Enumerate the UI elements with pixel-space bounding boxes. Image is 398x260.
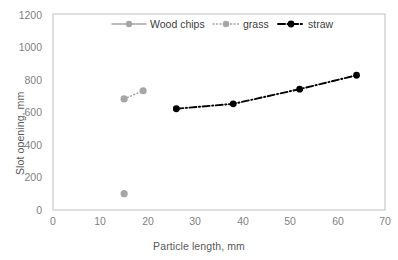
legend-item-wood-chips: Wood chips <box>112 18 205 30</box>
series-wood-chips <box>121 190 128 197</box>
series-line <box>176 75 356 108</box>
plot-svg: Wood chipsgrassstraw <box>0 0 398 260</box>
data-point <box>230 100 237 107</box>
legend-item-straw: straw <box>278 18 334 30</box>
series-grass <box>121 87 147 102</box>
chart-container: Slot opening, mm Particle length, mm 0 2… <box>0 0 398 260</box>
data-point <box>121 190 128 197</box>
legend-marker <box>288 21 295 28</box>
data-point <box>121 95 128 102</box>
legend-label: grass <box>243 18 269 30</box>
legend-marker <box>126 21 132 27</box>
data-point <box>173 105 180 112</box>
data-point <box>353 72 360 79</box>
series-straw <box>173 72 360 112</box>
data-series-layer <box>121 72 360 197</box>
chart-legend: Wood chipsgrassstraw <box>112 18 334 30</box>
data-point <box>296 86 303 93</box>
legend-label: straw <box>308 18 334 30</box>
data-point <box>140 87 147 94</box>
legend-item-grass: grass <box>213 18 269 30</box>
plot-area-frame <box>53 14 385 210</box>
legend-marker <box>223 21 229 27</box>
legend-label: Wood chips <box>150 18 205 30</box>
